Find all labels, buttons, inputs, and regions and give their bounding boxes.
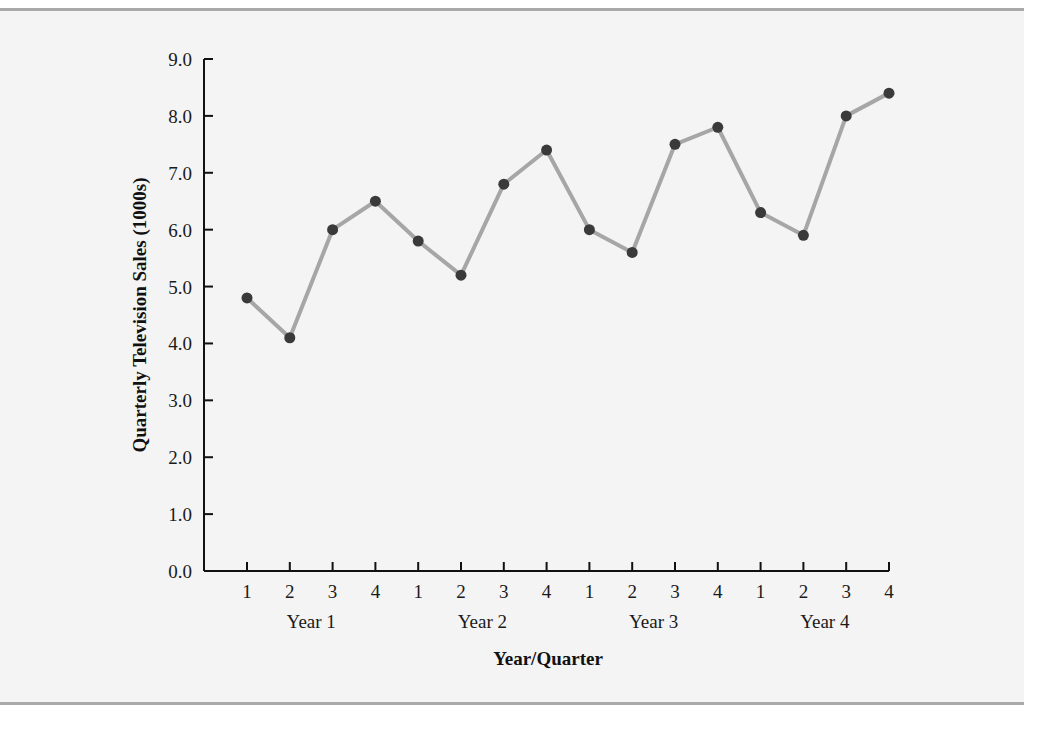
data-point-marker <box>284 332 295 343</box>
x-tick-label: 4 <box>884 581 894 602</box>
x-tick-label: 4 <box>542 581 552 602</box>
data-point-marker <box>584 224 595 235</box>
x-group-label: Year 2 <box>458 611 507 632</box>
data-point-marker <box>712 122 723 133</box>
x-tick-label: 2 <box>285 581 295 602</box>
data-point-marker <box>884 88 895 99</box>
x-tick-label: 1 <box>413 581 423 602</box>
x-tick-label: 1 <box>756 581 766 602</box>
x-tick-label: 1 <box>242 581 252 602</box>
data-point-marker <box>242 292 253 303</box>
y-tick-label: 1.0 <box>168 504 192 525</box>
x-tick-label: 3 <box>841 581 851 602</box>
data-point-marker <box>755 207 766 218</box>
data-point-marker <box>670 139 681 150</box>
y-tick-label: 4.0 <box>168 333 192 354</box>
x-axis-groups: Year 1Year 2Year 3Year 4 <box>287 611 850 632</box>
y-tick-label: 7.0 <box>168 163 192 184</box>
axes <box>204 59 889 571</box>
x-tick-label: 3 <box>328 581 338 602</box>
data-point-marker <box>456 270 467 281</box>
y-tick-label: 6.0 <box>168 220 192 241</box>
x-tick-label: 2 <box>627 581 637 602</box>
y-axis-title: Quarterly Television Sales (1000s) <box>129 178 151 453</box>
data-point-marker <box>541 145 552 156</box>
y-tick-label: 0.0 <box>168 561 192 582</box>
series-line <box>247 93 889 338</box>
x-tick-label: 2 <box>799 581 809 602</box>
y-tick-label: 8.0 <box>168 106 192 127</box>
y-tick-label: 9.0 <box>168 49 192 70</box>
x-tick-label: 1 <box>585 581 595 602</box>
x-tick-label: 4 <box>371 581 381 602</box>
data-point-marker <box>413 236 424 247</box>
data-point-marker <box>798 230 809 241</box>
y-axis-ticks: 0.01.02.03.04.05.06.07.08.09.0 <box>168 49 213 582</box>
data-point-marker <box>498 179 509 190</box>
data-point-marker <box>327 224 338 235</box>
y-tick-label: 5.0 <box>168 277 192 298</box>
x-axis-title: Year/Quarter <box>493 648 603 669</box>
data-point-marker <box>841 110 852 121</box>
x-tick-label: 3 <box>499 581 509 602</box>
x-group-label: Year 4 <box>800 611 850 632</box>
data-point-marker <box>627 247 638 258</box>
x-axis-ticks: 1234123412341234 <box>242 562 894 602</box>
data-series <box>242 88 895 344</box>
line-chart: 0.01.02.03.04.05.06.07.08.09.0 123412341… <box>0 0 1043 735</box>
x-tick-label: 3 <box>670 581 680 602</box>
x-group-label: Year 3 <box>629 611 678 632</box>
x-tick-label: 4 <box>713 581 723 602</box>
data-point-marker <box>370 196 381 207</box>
y-tick-label: 3.0 <box>168 390 192 411</box>
y-tick-label: 2.0 <box>168 447 192 468</box>
x-group-label: Year 1 <box>287 611 336 632</box>
x-tick-label: 2 <box>456 581 466 602</box>
